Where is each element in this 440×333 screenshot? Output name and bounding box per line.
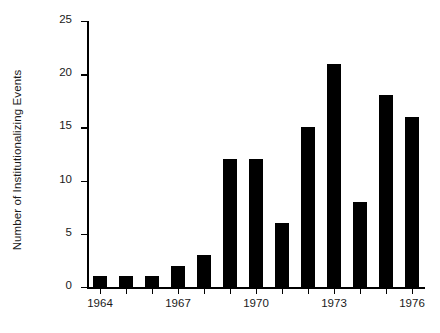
x-tick xyxy=(126,288,127,294)
y-tick: 5 xyxy=(81,234,87,235)
y-axis-title: Number of Institutionalizing Events xyxy=(6,10,28,310)
y-tick-label: 10 xyxy=(59,173,72,185)
bar xyxy=(379,95,393,287)
bar xyxy=(275,223,289,287)
bar xyxy=(223,159,237,287)
bar xyxy=(171,266,185,287)
x-tick xyxy=(386,288,387,294)
y-tick: 10 xyxy=(81,181,87,182)
bar xyxy=(197,255,211,287)
x-tick xyxy=(282,288,283,294)
bar xyxy=(145,276,159,287)
bar xyxy=(249,159,263,287)
x-tick xyxy=(334,288,335,294)
x-tick-label: 1973 xyxy=(321,297,347,309)
y-tick: 0 xyxy=(81,287,87,288)
bar xyxy=(119,276,133,287)
x-tick xyxy=(100,288,101,294)
x-tick-label: 1976 xyxy=(399,297,425,309)
x-tick xyxy=(256,288,257,294)
x-tick xyxy=(178,288,179,294)
x-tick xyxy=(204,288,205,294)
x-tick xyxy=(152,288,153,294)
x-tick-label: 1964 xyxy=(87,297,113,309)
x-tick xyxy=(360,288,361,294)
plot-area: 0510152025 19641967197019731976 xyxy=(87,21,425,287)
y-tick: 15 xyxy=(81,127,87,128)
x-tick-label: 1967 xyxy=(165,297,191,309)
bar xyxy=(405,117,419,287)
bars-layer xyxy=(87,21,425,287)
y-tick: 25 xyxy=(81,21,87,22)
y-tick-label: 5 xyxy=(66,226,72,238)
x-tick xyxy=(230,288,231,294)
y-tick-label: 15 xyxy=(59,119,72,131)
bar xyxy=(301,127,315,287)
bar xyxy=(327,64,341,287)
y-tick-label: 0 xyxy=(66,279,72,291)
bar xyxy=(93,276,107,287)
bar-chart: Number of Institutionalizing Events 0510… xyxy=(0,0,440,333)
bar xyxy=(353,202,367,287)
x-tick-label: 1970 xyxy=(243,297,269,309)
y-tick: 20 xyxy=(81,74,87,75)
y-tick-label: 20 xyxy=(59,66,72,78)
x-tick xyxy=(412,288,413,294)
y-tick-label: 25 xyxy=(59,13,72,25)
x-tick xyxy=(308,288,309,294)
